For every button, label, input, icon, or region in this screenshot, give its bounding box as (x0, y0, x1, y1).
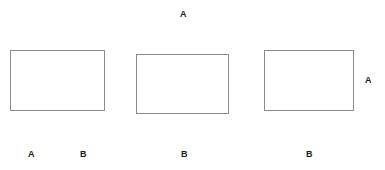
label-bottom-right-b: B (306, 150, 313, 159)
label-bottom-left-a: A (28, 150, 35, 159)
label-bottom-middle-b: B (181, 150, 188, 159)
rectangle-middle[interactable] (136, 54, 229, 114)
label-top-center-a: A (180, 10, 187, 19)
rectangle-right[interactable] (264, 50, 354, 111)
diagram-canvas: A A A B B B (0, 0, 385, 170)
rectangle-left[interactable] (10, 50, 105, 111)
label-bottom-left-b: B (80, 150, 87, 159)
label-right-a: A (365, 76, 372, 85)
